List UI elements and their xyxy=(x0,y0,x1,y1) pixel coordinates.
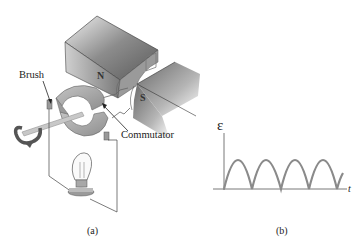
y-axis-label: ε xyxy=(217,117,223,134)
circuit-wire-right xyxy=(90,140,117,212)
x-axis-label: t xyxy=(348,183,351,194)
commutator-label: Commutator xyxy=(121,129,174,140)
brush-leader xyxy=(43,81,50,101)
caption-a: (a) xyxy=(87,225,98,236)
dc-generator-figure xyxy=(0,0,364,249)
panel-b-graph xyxy=(213,133,347,190)
north-pole-label: N xyxy=(97,70,104,81)
south-pole-label: S xyxy=(140,92,146,103)
panel-a xyxy=(16,16,200,212)
brush-label: Brush xyxy=(19,69,44,80)
emf-curve xyxy=(224,160,343,189)
brush-right xyxy=(104,132,109,140)
caption-b: (b) xyxy=(276,225,288,236)
light-bulb-icon xyxy=(68,153,94,196)
commutator xyxy=(56,86,108,136)
